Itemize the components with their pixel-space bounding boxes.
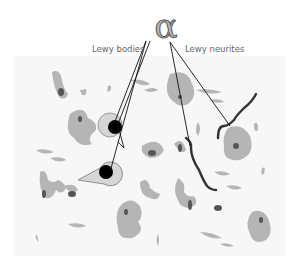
lewy-neurites-label: Lewy neurites (185, 44, 244, 54)
pointer-lines (110, 41, 230, 172)
tissue-illustration (0, 0, 293, 266)
neurons (36, 71, 271, 247)
lewy-bodies-label: Lewy bodies (92, 44, 145, 54)
lewy-body-1 (98, 113, 122, 137)
lewy-body-2 (78, 162, 122, 186)
alpha-synuclein-symbol: α (148, 6, 184, 46)
